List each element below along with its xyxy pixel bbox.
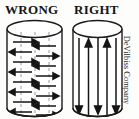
credit-attribution: DeVilbiss Company (120, 24, 134, 116)
credit-text: DeVilbiss Company (122, 36, 132, 105)
wrong-technique-diagram (5, 18, 65, 119)
panel-label-wrong: WRONG (5, 2, 59, 18)
figure-container: WRONG RIGHT (0, 0, 139, 119)
panel-label-right: RIGHT (74, 2, 119, 18)
right-technique-diagram (70, 18, 125, 119)
